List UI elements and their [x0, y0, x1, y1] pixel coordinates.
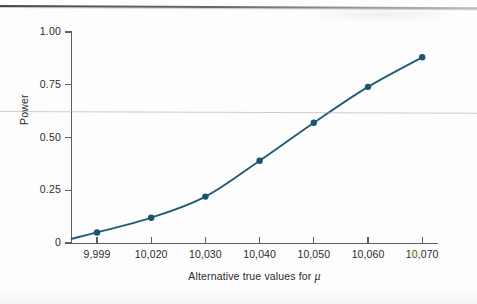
data-point-6 [419, 54, 425, 60]
figure-root: 00.250.500.751.00 9,99910,02010,03010,04… [0, 0, 477, 304]
scan-smudge-bottom-artifact [0, 288, 477, 304]
data-point-5 [365, 84, 371, 90]
data-point-4 [311, 120, 317, 126]
data-point-1 [148, 214, 154, 220]
data-point-2 [202, 193, 208, 199]
data-point-0 [94, 229, 100, 235]
scan-smudge-yellow-artifact [406, 248, 424, 260]
data-point-3 [256, 158, 262, 164]
